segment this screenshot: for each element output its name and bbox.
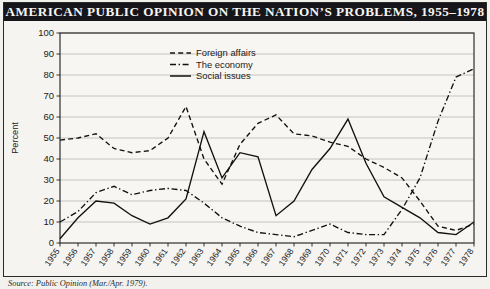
legend-label-social-issues: Social issues bbox=[196, 70, 251, 81]
y-tick-label: 10 bbox=[43, 216, 54, 227]
x-tick-label: 1966 bbox=[240, 246, 259, 268]
y-axis-label: Percent bbox=[10, 122, 20, 154]
y-tick-label: 90 bbox=[43, 48, 54, 59]
x-tick-label: 1960 bbox=[132, 246, 151, 268]
x-tick-label: 1978 bbox=[456, 246, 475, 268]
x-tick-label: 1956 bbox=[60, 246, 79, 268]
x-tick-label: 1964 bbox=[204, 246, 223, 268]
x-tick-label: 1969 bbox=[294, 246, 313, 268]
x-tick-label: 1974 bbox=[384, 246, 403, 268]
x-tick-label: 1975 bbox=[402, 246, 421, 268]
y-tick-label: 60 bbox=[43, 111, 54, 122]
line-chart-svg: 0102030405060708090100Percent19551956195… bbox=[0, 0, 490, 289]
x-tick-label: 1959 bbox=[114, 246, 133, 268]
y-tick-label: 40 bbox=[43, 153, 54, 164]
y-tick-label: 30 bbox=[43, 174, 54, 185]
x-tick-label: 1968 bbox=[276, 246, 295, 268]
legend-label-foreign-affairs: Foreign affairs bbox=[196, 47, 256, 58]
source-caption: Source: Public Opinion (Mar./Apr. 1979). bbox=[8, 279, 147, 288]
y-tick-label: 20 bbox=[43, 195, 54, 206]
y-tick-label: 70 bbox=[43, 90, 54, 101]
y-tick-label: 80 bbox=[43, 69, 54, 80]
chart-plot-area: 0102030405060708090100Percent19551956195… bbox=[0, 0, 490, 289]
x-tick-label: 1962 bbox=[168, 246, 187, 268]
x-tick-label: 1958 bbox=[96, 246, 115, 268]
x-tick-label: 1965 bbox=[222, 246, 241, 268]
x-tick-label: 1961 bbox=[150, 246, 169, 268]
y-tick-label: 50 bbox=[43, 132, 54, 143]
figure: AMERICAN PUBLIC OPINION ON THE NATION’S … bbox=[0, 0, 490, 289]
x-tick-label: 1972 bbox=[348, 246, 367, 268]
x-tick-label: 1957 bbox=[78, 246, 97, 268]
x-tick-label: 1976 bbox=[420, 246, 439, 268]
x-tick-label: 1963 bbox=[186, 246, 205, 268]
y-tick-label: 100 bbox=[38, 27, 54, 38]
x-tick-label: 1977 bbox=[438, 246, 457, 268]
x-tick-label: 1970 bbox=[312, 246, 331, 268]
x-tick-label: 1955 bbox=[42, 246, 61, 268]
x-tick-label: 1971 bbox=[330, 246, 349, 268]
legend-label-the-economy: The economy bbox=[196, 59, 253, 70]
x-tick-label: 1973 bbox=[366, 246, 385, 268]
x-tick-label: 1967 bbox=[258, 246, 277, 268]
